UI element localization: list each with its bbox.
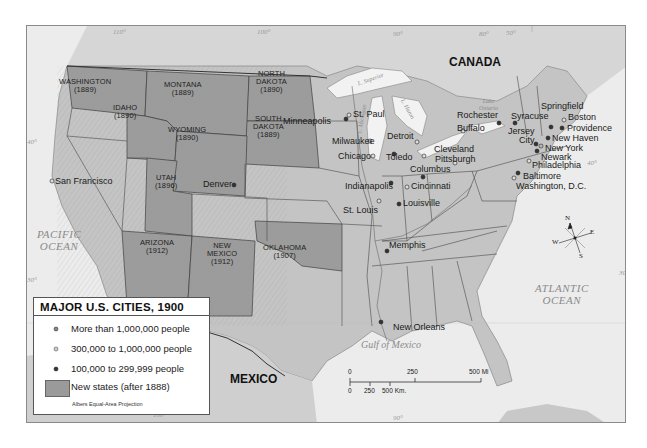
state-label-north-dakota: NORTH DAKOTA(1890): [256, 70, 287, 94]
city-dot-new-haven: [546, 136, 550, 140]
city-label-toledo: Toledo: [386, 152, 413, 162]
city-dot-syracuse: [513, 121, 517, 125]
city-dot-chicago: [371, 154, 375, 158]
city-dot-san-francisco: [50, 179, 54, 183]
state-label-arizona: ARIZONA(1912): [140, 239, 174, 255]
city-dot-cleveland: [422, 154, 426, 158]
city-label-boston: Boston: [568, 112, 596, 122]
city-label-new-orleans: New Orleans: [393, 322, 445, 332]
city-label-rochester: Rochester: [457, 110, 498, 120]
scale-km-0: 0: [348, 387, 352, 394]
city-label-louisville: Louisville: [403, 198, 440, 208]
city-dot-new-orleans: [379, 320, 383, 324]
city-label-detroit: Detroit: [387, 131, 414, 141]
city-dot-washington: [516, 171, 520, 175]
lon-label-50: 50°: [506, 29, 516, 37]
scale-km-250: 250: [364, 387, 375, 394]
lon-label-80: 80°: [479, 30, 489, 38]
city-dot-cincinnati: [405, 185, 409, 189]
scale-mi-0: 0: [348, 368, 352, 375]
city-label-pittsburgh: Pittsburgh: [435, 154, 476, 164]
lat-label-40-west: 40°: [27, 138, 37, 146]
city-label-jersey-city: Jersey City: [508, 127, 535, 145]
state-label-idaho: IDAHO(1890): [113, 104, 137, 120]
new-state-swatch-icon: [45, 380, 70, 397]
city-dot-st-paul: [347, 113, 351, 117]
lat-label-30-west: 30°: [27, 276, 37, 284]
city-label-buffalo: Buffalo: [457, 123, 485, 133]
country-label-mexico: MEXICO: [230, 372, 277, 386]
city-label-columbus: Columbus: [410, 164, 451, 174]
city-label-denver: Denver: [203, 179, 232, 189]
gulf-of-mexico-label: Gulf of Mexico: [361, 339, 421, 350]
scale-mi-250: 250: [407, 368, 418, 375]
city-dot-boston: [562, 118, 566, 122]
city-label-washington-dc: Washington, D.C.: [516, 181, 586, 191]
projection-note: Albers Equal-Area Projection: [72, 401, 143, 407]
city-dot-philadelphia: [527, 159, 531, 163]
scale-km-500: 500 Km.: [382, 387, 406, 394]
city-dot-baltimore: [512, 176, 516, 180]
scale-bar: [350, 378, 481, 386]
state-label-south-dakota: SOUTH DAKOTA(1889): [253, 115, 284, 139]
city-label-cleveland: Cleveland: [434, 144, 474, 154]
state-label-new-mexico: NEW MEXICO(1912): [207, 242, 237, 266]
city-label-providence: Providence: [567, 123, 612, 133]
city-label-new-haven: New Haven: [552, 133, 599, 143]
map-legend: MAJOR U.S. CITIES, 1900 More than 1,000,…: [33, 297, 210, 415]
city-dot-new-york: [539, 144, 543, 148]
compass-w-label: W: [552, 238, 559, 246]
city-dot-denver: [232, 183, 236, 187]
state-label-utah: UTAH(1896): [155, 174, 177, 190]
city-label-philadelphia: Philadelphia: [532, 160, 581, 170]
city-label-st-louis: St. Louis: [343, 205, 378, 215]
city-dot-louisville: [397, 202, 401, 206]
city-dot-springfield: [549, 125, 553, 129]
city-dot-providence: [560, 126, 564, 130]
city-dot-minneapolis: [344, 117, 348, 121]
city-label-st-paul: St. Paul: [353, 109, 385, 119]
lon-label-100: 100°: [257, 28, 270, 36]
city-label-san-francisco: San Francisco: [55, 176, 113, 186]
state-label-oklahoma: OKLAHOMA(1907): [263, 244, 306, 260]
legend-title: MAJOR U.S. CITIES, 1900: [34, 298, 209, 316]
city-dot-newark: [535, 149, 539, 153]
compass-n-label: N: [565, 214, 570, 222]
pacific-ocean-label: PACIFIC OCEAN: [37, 228, 81, 252]
lat-label-30-east: 30°: [619, 269, 626, 277]
city-label-syracuse: Syracuse: [511, 111, 549, 121]
cuba: [497, 404, 607, 423]
city-label-indianapolis: Indianapolis: [345, 181, 393, 191]
city-label-baltimore: Baltimore: [523, 171, 561, 181]
state-label-montana: MONTANA(1889): [164, 81, 202, 97]
small-city-dot-icon: [53, 363, 59, 374]
lon-label-90: 90°: [393, 30, 403, 38]
lon-label-90-bottom: 90°: [393, 414, 403, 422]
city-dot-st-louis: [377, 199, 381, 203]
city-dot-rochester: [497, 121, 501, 125]
city-label-memphis: Memphis: [389, 240, 426, 250]
large-city-dot-icon: [53, 323, 59, 334]
scale-mi-500: 500 Mi: [469, 368, 489, 375]
city-label-chicago: Chicago: [338, 151, 371, 161]
atlantic-ocean-label: ATLANTIC OCEAN: [535, 282, 589, 306]
lat-label-40-east: 40°: [587, 159, 597, 167]
country-label-canada: CANADA: [449, 55, 501, 69]
state-label-wyoming: WYOMING(1890): [168, 126, 206, 142]
city-label-springfield: Springfield: [541, 101, 584, 111]
city-dot-detroit: [415, 140, 419, 144]
city-label-milwaukee: Milwaukee: [332, 136, 375, 146]
city-dot-columbus: [421, 175, 425, 179]
city-label-minneapolis: Minneapolis: [283, 116, 331, 126]
compass-rose: [559, 223, 591, 253]
state-label-washington: WASHINGTON(1889): [59, 78, 111, 94]
city-label-cincinnati: Cincinnati: [411, 181, 451, 191]
medium-city-dot-icon: [53, 343, 59, 354]
lon-label-110: 110°: [113, 28, 126, 36]
compass-s-label: S: [579, 252, 583, 260]
compass-e-label: E: [590, 228, 594, 236]
